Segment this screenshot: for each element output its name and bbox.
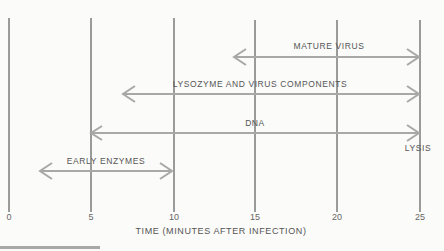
tick-20: 20	[332, 212, 342, 222]
scan-artifact	[0, 246, 100, 249]
label-lysis: LYSIS	[405, 143, 431, 153]
tick-25: 25	[415, 212, 425, 222]
timeline-graphic	[0, 0, 444, 251]
tick-10: 10	[169, 212, 179, 222]
label-lysozyme: LYSOZYME AND VIRUS COMPONENTS	[173, 79, 348, 89]
label-dna: DNA	[245, 118, 265, 128]
label-early-enzymes: EARLY ENZYMES	[67, 156, 145, 166]
tick-0: 0	[6, 212, 11, 222]
infection-timeline: MATURE VIRUS LYSOZYME AND VIRUS COMPONEN…	[0, 0, 444, 251]
x-axis-label: TIME (MINUTES AFTER INFECTION)	[136, 226, 307, 236]
tick-15: 15	[250, 212, 260, 222]
tick-5: 5	[88, 212, 93, 222]
label-mature-virus: MATURE VIRUS	[294, 41, 365, 51]
